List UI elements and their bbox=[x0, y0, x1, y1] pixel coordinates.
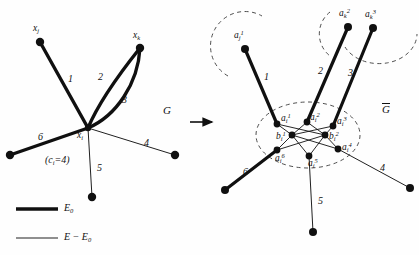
node-bi1 bbox=[289, 132, 296, 139]
right-edge-1 bbox=[245, 49, 277, 124]
node-xk bbox=[136, 44, 144, 52]
dashed-arc-cluster-k2 bbox=[345, 34, 417, 64]
right-edge-label-4: 4 bbox=[380, 163, 385, 173]
node-ai4 bbox=[335, 146, 342, 153]
left-edge-4 bbox=[88, 128, 175, 155]
label-node-ak3: ak3 bbox=[365, 9, 376, 20]
label-node-aj1: aj1 bbox=[234, 30, 244, 41]
node-left-leaf-5 bbox=[88, 193, 96, 201]
right-edge-label-3: 3 bbox=[348, 68, 353, 78]
right-edge-label-2: 2 bbox=[318, 66, 323, 76]
label-node-xi: xi bbox=[77, 131, 83, 141]
node-bi2 bbox=[322, 132, 329, 139]
capacity-label: (ci=4) bbox=[45, 155, 70, 166]
left-edge-1 bbox=[40, 42, 88, 128]
figure-canvas: xj xk xi 1 2 3 4 5 6 (ci=4) G aj1 ak2 ak… bbox=[0, 0, 419, 255]
label-node-ai3: ai3 bbox=[337, 116, 347, 127]
cluster-edge-a5-b1 bbox=[292, 135, 309, 156]
left-graph-edges bbox=[10, 42, 175, 197]
legend-label-e-minus-e0: E − E0 bbox=[64, 232, 91, 243]
label-node-bi1: bi1 bbox=[276, 131, 286, 142]
node-right-leaf-5 bbox=[309, 228, 317, 236]
node-ai1 bbox=[274, 121, 281, 128]
label-node-ai6: ai6 bbox=[275, 153, 285, 164]
right-edge-3 bbox=[333, 28, 373, 126]
right-edge-label-6: 6 bbox=[243, 167, 248, 177]
right-edge-label-5: 5 bbox=[318, 196, 323, 206]
left-edge-label-5: 5 bbox=[97, 163, 102, 173]
node-left-leaf-6 bbox=[6, 151, 14, 159]
left-graph-name: G bbox=[163, 105, 171, 116]
diagram-svg bbox=[0, 0, 419, 255]
label-node-ai1: ai1 bbox=[281, 113, 291, 124]
node-ak3 bbox=[369, 24, 377, 32]
right-edge-4 bbox=[338, 149, 410, 188]
node-right-leaf-4 bbox=[406, 184, 414, 192]
left-edge-label-3: 3 bbox=[122, 95, 127, 105]
left-edge-5 bbox=[88, 128, 92, 197]
left-edge-label-1: 1 bbox=[68, 74, 73, 84]
label-node-xj: xj bbox=[33, 24, 39, 34]
cluster-edge-a5-b2 bbox=[309, 135, 325, 156]
right-graph-name-text: G bbox=[382, 103, 390, 115]
node-ai3 bbox=[330, 123, 337, 130]
dashed-arc-cluster-j bbox=[211, 12, 262, 76]
node-left-leaf-4 bbox=[171, 151, 179, 159]
label-node-bi2: bi2 bbox=[329, 131, 339, 142]
dashed-arc-cluster-k bbox=[319, 12, 330, 56]
left-edge-label-6: 6 bbox=[38, 132, 43, 142]
node-xj bbox=[36, 38, 44, 46]
right-edge-6 bbox=[225, 150, 277, 190]
right-graph-name: G bbox=[382, 103, 390, 115]
node-ak2 bbox=[344, 23, 352, 31]
label-node-ai2: ai2 bbox=[310, 112, 320, 123]
label-node-ak2: ak2 bbox=[339, 8, 350, 19]
right-edge-label-1: 1 bbox=[264, 72, 269, 82]
label-node-xk: xk bbox=[133, 31, 140, 41]
left-edge-label-4: 4 bbox=[144, 138, 149, 148]
left-edge-2 bbox=[88, 48, 140, 128]
label-node-ai4: ai4 bbox=[342, 142, 352, 153]
node-right-leaf-6 bbox=[221, 186, 229, 194]
legend-label-e0: E0 bbox=[64, 203, 73, 214]
node-xi bbox=[85, 125, 91, 131]
label-node-ai5: ai5 bbox=[308, 158, 318, 169]
left-edge-label-2: 2 bbox=[98, 72, 103, 82]
node-aj1 bbox=[241, 45, 249, 53]
